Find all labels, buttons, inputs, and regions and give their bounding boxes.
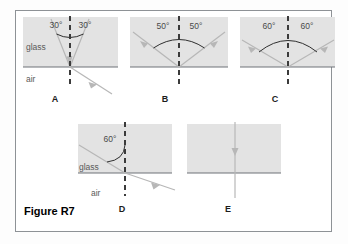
- panel-d: 60° glass air D: [78, 122, 175, 214]
- panel-d-label: D: [119, 204, 126, 214]
- panel-c-label: C: [272, 94, 279, 104]
- figure-root: 30° 30° glass air A 50° 50° B: [0, 0, 348, 244]
- panel-a-refracted-ray: [70, 67, 112, 94]
- panel-c-glass-region: [240, 17, 335, 67]
- panel-b-glass-region: [130, 17, 228, 67]
- panel-d-refracted-ray: [125, 173, 175, 190]
- panel-d-glass-label: glass: [79, 162, 99, 172]
- panel-e-label: E: [225, 204, 231, 214]
- ray-diagram-canvas: 30° 30° glass air A 50° 50° B: [0, 0, 348, 244]
- panel-b-label: B: [162, 94, 169, 104]
- panel-b-angle-right-label: 50°: [190, 21, 203, 31]
- panel-a: 30° 30° glass air A: [23, 16, 118, 104]
- panel-a-angle-left-label: 30°: [50, 20, 63, 30]
- panel-c: 60° 60° C: [240, 16, 335, 104]
- panel-a-air-label: air: [26, 74, 36, 84]
- panel-a-label: A: [52, 94, 59, 104]
- panel-d-angle-label: 60°: [104, 134, 117, 144]
- panel-a-glass-label: glass: [26, 42, 46, 52]
- panel-b-angle-left-label: 50°: [157, 21, 170, 31]
- figure-caption: Figure R7: [24, 205, 75, 217]
- panel-a-angle-right-label: 30°: [79, 20, 92, 30]
- panel-d-air-label: air: [91, 188, 101, 198]
- panel-e: E: [187, 122, 281, 214]
- panel-c-angle-right-label: 60°: [301, 21, 314, 31]
- panel-b: 50° 50° B: [130, 16, 228, 104]
- panel-c-angle-left-label: 60°: [263, 21, 276, 31]
